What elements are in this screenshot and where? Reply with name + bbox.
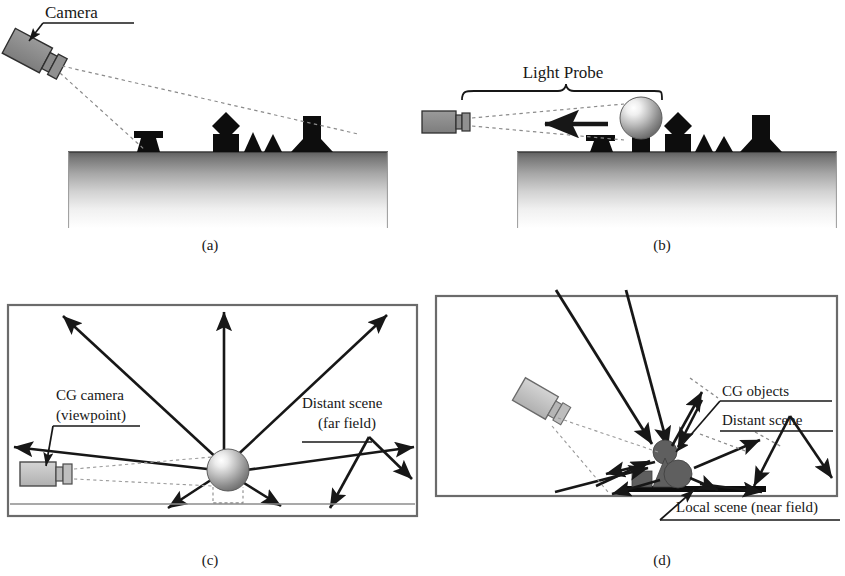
distant-scene-label-text: Distant scene	[722, 412, 803, 428]
light-probe-brace-b	[462, 84, 662, 100]
panel-c: CG camera (viewpoint) Distant scene (far…	[8, 305, 417, 516]
camera-a	[2, 28, 68, 81]
panel-a-caption: (a)	[202, 237, 219, 254]
panel-d: CG objects Distant scene Local scene (ne…	[436, 290, 840, 520]
distant-scene-label-line1: Distant scene	[302, 395, 383, 411]
cg-objects-label-text: CG objects	[722, 383, 789, 399]
figure-canvas: Camera (a)	[0, 0, 845, 576]
light-probe-sphere-b	[620, 97, 662, 139]
panel-b-caption: (b)	[653, 237, 671, 254]
scene-objects-b	[586, 112, 782, 152]
camera-label-text: Camera	[45, 3, 98, 22]
distant-scene-label-line2: (far field)	[318, 415, 376, 432]
local-scene-label-text: Local scene (near field)	[676, 499, 818, 516]
ground-plane-a	[68, 152, 388, 228]
scene-objects-a	[134, 112, 333, 152]
panel-a: Camera	[2, 3, 388, 228]
camera-b	[422, 111, 470, 133]
light-probe-label-text: Light Probe	[523, 63, 604, 82]
cg-camera-label-line2: (viewpoint)	[56, 407, 126, 424]
cg-camera-label-line1: CG camera	[56, 387, 124, 403]
panel-b: Light Probe	[422, 63, 837, 228]
panel-d-caption: (d)	[653, 552, 671, 569]
camera-label-a: Camera	[29, 3, 134, 41]
panel-c-caption: (c)	[202, 552, 219, 569]
ground-plane-b	[517, 152, 837, 228]
